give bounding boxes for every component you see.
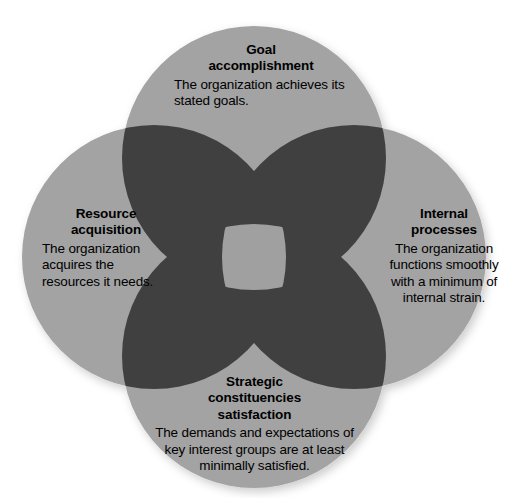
- label-internal-processes: Internal processes The organization func…: [383, 206, 505, 307]
- label-resource-acquisition: Resource acquisition The organization ac…: [42, 206, 170, 290]
- label-goal-title-line1: Goal: [246, 42, 276, 57]
- label-strategic-title-line2: constituencies: [208, 390, 301, 405]
- label-internal-body: The organization functions smoothly with…: [383, 241, 505, 307]
- label-strategic-title-line1: Strategic: [226, 374, 283, 389]
- label-resource-title-line2: acquisition: [71, 222, 141, 237]
- label-strategic-title: Strategic constituencies satisfaction: [152, 374, 357, 423]
- label-goal-accomplishment: Goal accomplishment The organization ach…: [171, 42, 351, 110]
- label-internal-title: Internal processes: [383, 206, 505, 239]
- label-goal-title-line2: accomplishment: [208, 58, 313, 73]
- label-strategic-constituencies-satisfaction: Strategic constituencies satisfaction Th…: [152, 374, 357, 475]
- venn-diagram-figure: Goal accomplishment The organization ach…: [0, 0, 508, 498]
- label-goal-body: The organization achieves its stated goa…: [174, 77, 351, 110]
- label-strategic-body: The demands and expectations of key inte…: [152, 425, 357, 474]
- label-strategic-title-line3: satisfaction: [218, 407, 292, 422]
- label-internal-title-line1: Internal: [420, 206, 468, 221]
- label-resource-title-line1: Resource: [76, 206, 137, 221]
- label-resource-title: Resource acquisition: [42, 206, 170, 239]
- label-internal-title-line2: processes: [411, 222, 477, 237]
- label-goal-title: Goal accomplishment: [171, 42, 351, 75]
- label-resource-body: The organization acquires the resources …: [42, 241, 170, 290]
